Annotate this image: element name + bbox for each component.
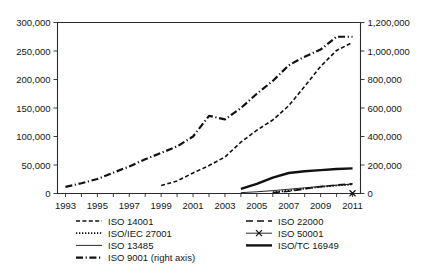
y-axis-right-tick-label: 600,000 — [368, 103, 402, 114]
y-axis-right-tick-label: 200,000 — [368, 160, 402, 171]
x-axis-tick-label: 2001 — [182, 200, 203, 211]
legend-label-iso-13485: ISO 13485 — [108, 240, 153, 251]
chart-figure: 050,000100,000150,000200,000250,000300,0… — [0, 0, 440, 273]
x-axis-tick-label: 1997 — [119, 200, 140, 211]
y-axis-right-tick-label: 1,200,000 — [368, 17, 410, 28]
series-line-iso-9001-right-axis — [65, 37, 352, 187]
x-axis-tick-label: 2007 — [278, 200, 299, 211]
legend-label-iso-50001: ISO 50001 — [278, 228, 323, 239]
x-axis-tick-label: 1999 — [151, 200, 172, 211]
y-axis-left-tick-label: 200,000 — [16, 74, 50, 85]
y-axis-left-tick-label: 0 — [45, 188, 50, 199]
series-line-iso-14001 — [161, 42, 352, 185]
y-axis-right-tick-label: 0 — [368, 188, 373, 199]
y-axis-right-tick-label: 800,000 — [368, 74, 402, 85]
y-axis-left-tick-label: 300,000 — [16, 17, 50, 28]
y-axis-left-tick-label: 250,000 — [16, 46, 50, 57]
legend-label-iso-9001-right-axis: ISO 9001 (right axis) — [108, 252, 195, 263]
plot-frame — [58, 23, 361, 194]
x-axis-tick-label: 2005 — [246, 200, 267, 211]
y-axis-right-tick-label: 1,000,000 — [368, 46, 410, 57]
legend-label-iso-iec-27001: ISO/IEC 27001 — [108, 228, 172, 239]
y-axis-left-tick-label: 150,000 — [16, 103, 50, 114]
x-axis-tick-label: 2011 — [342, 200, 362, 211]
x-axis-tick-label: 2003 — [214, 200, 235, 211]
y-axis-left-tick-label: 50,000 — [21, 160, 50, 171]
x-axis-tick-label: 1993 — [55, 200, 76, 211]
y-axis-right-tick-label: 400,000 — [368, 131, 402, 142]
x-axis-tick-label: 2009 — [310, 200, 331, 211]
legend-label-iso-14001: ISO 14001 — [108, 216, 153, 227]
legend-label-iso-tc-16949: ISO/TC 16949 — [278, 240, 339, 251]
chart-canvas: 050,000100,000150,000200,000250,000300,0… — [0, 0, 440, 273]
series-line-iso-iec-27001 — [273, 184, 353, 192]
y-axis-left-tick-label: 100,000 — [16, 131, 50, 142]
x-axis-tick-label: 1995 — [87, 200, 108, 211]
legend-label-iso-22000: ISO 22000 — [278, 216, 323, 227]
